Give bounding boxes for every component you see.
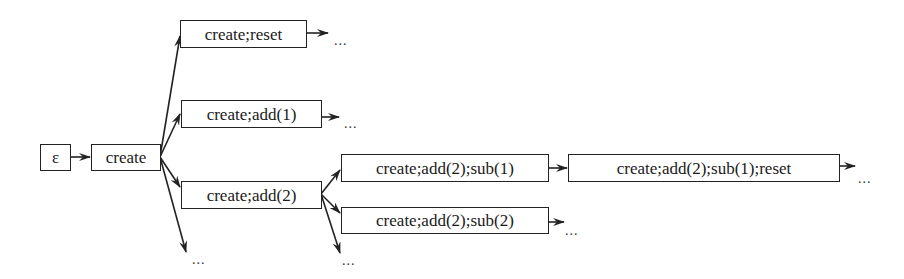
node-label: create;add(2)	[207, 187, 297, 204]
edge-create-add1	[160, 114, 180, 157]
edge-add2-more	[321, 194, 340, 253]
node-label: create;add(2);sub(1);reset	[617, 160, 792, 177]
node-epsilon: ε	[40, 144, 71, 171]
node-create-add2-sub2: create;add(2);sub(2)	[341, 207, 549, 234]
ellipsis-after-sub2: ...	[565, 224, 579, 238]
node-label: create;reset	[205, 26, 282, 43]
node-create-add1: create;add(1)	[181, 100, 322, 128]
edges-layer	[0, 0, 904, 279]
node-label: create;add(1)	[207, 106, 297, 123]
node-create-add2-sub1-reset: create;add(2);sub(1);reset	[568, 154, 840, 182]
ellipsis-after-add2: ...	[342, 254, 356, 268]
ellipsis-after-sub1-reset: ...	[858, 172, 872, 186]
edge-add2-sub1	[321, 170, 340, 194]
node-create-reset: create;reset	[180, 20, 307, 48]
ellipsis-after-add1: ...	[344, 117, 358, 131]
node-label: create	[106, 149, 147, 166]
ellipsis-after-create: ...	[192, 253, 206, 267]
node-create-add2: create;add(2)	[181, 181, 322, 209]
node-label: create;add(2);sub(1)	[376, 160, 514, 177]
node-label: ε	[52, 149, 59, 166]
node-label: create;add(2);sub(2)	[376, 212, 514, 229]
edge-create-add2	[160, 157, 180, 187]
ellipsis-after-reset: ...	[334, 34, 348, 48]
edge-add2-sub2	[321, 194, 340, 213]
node-create-add2-sub1: create;add(2);sub(1)	[341, 154, 549, 182]
node-create: create	[91, 144, 161, 171]
edge-create-reset	[160, 36, 180, 157]
